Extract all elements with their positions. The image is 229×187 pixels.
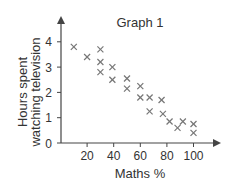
x-marker-point [97,46,103,52]
x-marker-point [124,75,130,81]
x-tick-label: 40 [107,149,121,163]
x-marker-point [159,97,165,103]
x-marker-point [137,94,143,100]
x-marker-point [109,77,115,83]
x-marker-point [180,118,186,124]
x-marker-point [137,83,143,89]
x-marker-point [109,64,115,70]
x-marker-point [191,130,197,136]
y-tick-label: 1 [45,111,52,125]
y-ticks: 01234 [45,35,61,150]
x-marker-point [71,44,77,50]
x-marker-point [191,121,197,127]
x-tick-label: 20 [80,149,94,163]
x-tick-label: 100 [183,149,203,163]
x-marker-point [160,111,166,117]
x-marker-point [97,59,103,65]
x-tick-label: 80 [160,149,174,163]
chart-title: Graph 1 [117,15,164,30]
y-axis-label: Hours spent watching television [15,37,43,147]
scatter-chart: Graph 1 20406080100 01234 Maths % Hours … [0,0,229,187]
y-axis-label-line-2: watching television [28,37,43,147]
axes [61,18,219,143]
x-ticks: 20406080100 [80,143,203,163]
x-marker-point [175,125,181,131]
x-tick-label: 60 [134,149,148,163]
y-tick-label: 0 [45,137,52,151]
y-tick-label: 2 [45,86,52,100]
data-points [71,44,197,136]
y-tick-label: 3 [45,61,52,75]
y-tick-label: 4 [45,35,52,49]
x-marker-point [147,94,153,100]
x-marker-point [124,86,130,92]
x-axis-label: Maths % [115,166,166,181]
x-marker-point [147,108,153,114]
x-marker-point [97,69,103,75]
x-marker-point [167,118,173,124]
chart-canvas: Graph 1 20406080100 01234 Maths % Hours … [0,0,229,187]
x-marker-point [84,54,90,60]
